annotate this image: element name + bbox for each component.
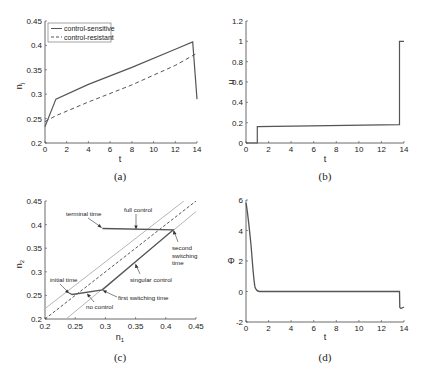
x-tick-label: 0.3 bbox=[100, 322, 112, 331]
y-ticks: 0.2 0.25 0.3 0.35 0.4 0.45 bbox=[26, 17, 47, 148]
y-tick-label: 0.45 bbox=[26, 197, 42, 206]
annotation-singular-control: singular control bbox=[130, 276, 172, 283]
x-tick-label: 0.25 bbox=[67, 322, 83, 331]
series-phi bbox=[246, 203, 404, 309]
x-axis-label: t bbox=[119, 154, 122, 164]
x-tick-label: 0.35 bbox=[128, 322, 144, 331]
x-axis-label: t bbox=[324, 154, 327, 164]
x-axis-label: t bbox=[324, 332, 327, 342]
panel-d: 0 2 4 6 8 10 12 14 -2 0 2 4 6 t Φ (d) bbox=[227, 196, 409, 364]
y-tick-label: 0.3 bbox=[31, 268, 43, 277]
annotation-no-control: no control bbox=[86, 303, 113, 310]
x-tick-label: 4 bbox=[289, 145, 294, 154]
svg-text:n2: n2 bbox=[14, 259, 25, 268]
x-tick-label: 10 bbox=[354, 145, 363, 154]
x-tick-label: 12 bbox=[377, 145, 386, 154]
x-tick-label: 4 bbox=[86, 145, 91, 154]
y-tick-label: 0 bbox=[239, 288, 244, 297]
x-tick-label: 6 bbox=[311, 324, 316, 333]
x-tick-label: 0 bbox=[244, 324, 249, 333]
y-tick-label: 0.2 bbox=[31, 139, 43, 148]
x-tick-label: 2 bbox=[266, 145, 271, 154]
x-axis-label: n1 bbox=[116, 332, 125, 343]
annotation-second-switching-time: second bbox=[172, 244, 193, 251]
figure: 0 2 4 6 8 10 12 14 0.2 0.25 0.3 0.35 0.4… bbox=[0, 0, 421, 382]
x-tick-label: 12 bbox=[171, 145, 180, 154]
y-axis-label: u bbox=[226, 79, 236, 84]
upper-boundary-line bbox=[45, 201, 184, 309]
y-tick-label: 1 bbox=[239, 37, 244, 46]
x-tick-label: 2 bbox=[64, 145, 69, 154]
annotation-second-switching-time-line3: time bbox=[172, 259, 184, 266]
y-tick-label: 0 bbox=[239, 139, 244, 148]
y-ticks: 0.2 0.25 0.3 0.35 0.4 0.45 bbox=[26, 197, 47, 324]
y-tick-label: 0.35 bbox=[26, 244, 42, 253]
y-tick-label: 0.2 bbox=[31, 315, 43, 324]
caption-b: (b) bbox=[319, 170, 332, 183]
x-tick-label: 14 bbox=[400, 324, 409, 333]
y-tick-label: 2 bbox=[239, 257, 244, 266]
legend-item-control-sensitive: control-sensitive bbox=[64, 25, 115, 32]
y-tick-label: 6 bbox=[239, 196, 244, 205]
x-tick-label: 8 bbox=[130, 145, 135, 154]
y-tick-label: 0.25 bbox=[26, 115, 42, 124]
x-tick-label: 8 bbox=[334, 324, 339, 333]
x-tick-label: 14 bbox=[400, 145, 409, 154]
x-tick-label: 2 bbox=[266, 324, 271, 333]
y-tick-label: 4 bbox=[239, 227, 244, 236]
x-tick-label: 8 bbox=[334, 145, 339, 154]
panel-c: 0.2 0.25 0.3 0.35 0.4 0.45 0.2 0.25 0.3 … bbox=[14, 197, 204, 364]
legend-item-control-resistant: control-resistant bbox=[64, 34, 114, 41]
x-tick-label: 14 bbox=[193, 145, 202, 154]
x-tick-label: 4 bbox=[289, 324, 294, 333]
y-tick-label: 0.8 bbox=[232, 58, 244, 67]
caption-a: (a) bbox=[114, 170, 127, 183]
x-tick-label: 12 bbox=[377, 324, 386, 333]
x-tick-label: 6 bbox=[311, 145, 316, 154]
x-tick-label: 0 bbox=[43, 145, 48, 154]
y-axis-label: nj bbox=[14, 83, 25, 89]
trajectory-line bbox=[69, 229, 173, 295]
series-control-sensitive bbox=[45, 42, 197, 127]
y-tick-label: 0.2 bbox=[232, 119, 244, 128]
x-tick-label: 10 bbox=[354, 324, 363, 333]
panel-a: 0 2 4 6 8 10 12 14 0.2 0.25 0.3 0.35 0.4… bbox=[14, 17, 202, 183]
y-axis-label: n2 bbox=[14, 259, 25, 268]
x-tick-label: 0.4 bbox=[160, 322, 172, 331]
y-tick-label: 0.45 bbox=[26, 17, 42, 26]
annotation-initial-time: initial time bbox=[50, 276, 78, 283]
x-tick-label: 10 bbox=[149, 145, 158, 154]
y-tick-label: 0.25 bbox=[26, 291, 42, 300]
panel-b: 0 2 4 6 8 10 12 14 0 0.2 0.4 0.6 0.8 1 1… bbox=[226, 17, 409, 183]
caption-c: (c) bbox=[114, 351, 127, 364]
legend: control-sensitive control-resistant bbox=[48, 23, 115, 42]
y-tick-label: 0.4 bbox=[31, 221, 43, 230]
annotation-full-control: full control bbox=[124, 206, 152, 213]
y-axis-label: Φ bbox=[227, 256, 234, 266]
annotation-first-switching-time: first switching time bbox=[118, 294, 169, 301]
series-control-resistant bbox=[45, 53, 197, 121]
svg-text:nj: nj bbox=[14, 83, 25, 89]
x-tick-label: 0.45 bbox=[188, 322, 204, 331]
annotation-terminal-time: terminal time bbox=[66, 210, 102, 217]
annotation-second-switching-time-line2: switching bbox=[172, 252, 198, 259]
y-tick-label: 0.4 bbox=[31, 41, 43, 50]
y-tick-label: 0.4 bbox=[232, 98, 244, 107]
caption-d: (d) bbox=[319, 351, 332, 364]
y-tick-label: 0.3 bbox=[31, 90, 43, 99]
series-u bbox=[246, 41, 404, 143]
x-tick-label: 6 bbox=[108, 145, 113, 154]
y-tick-label: -2 bbox=[236, 318, 244, 327]
y-tick-label: 1.2 bbox=[232, 17, 244, 26]
x-tick-label: 0 bbox=[244, 145, 249, 154]
y-tick-label: 0.35 bbox=[26, 66, 42, 75]
